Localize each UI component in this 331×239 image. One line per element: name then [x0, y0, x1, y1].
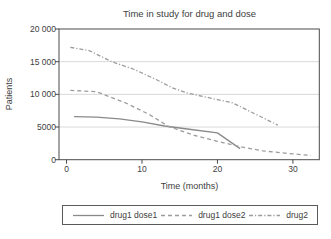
solid-line-sample-icon [72, 211, 105, 220]
legend-entry-drug2: drug2 [248, 210, 308, 220]
series-line-drug2 [70, 47, 277, 125]
legend-entry-drug1-dose1: drug1 dose1 [72, 210, 157, 220]
legend-box: drug1 dose1 drug1 dose2 drug2 [62, 205, 318, 225]
x-tick-label: 30 [278, 164, 308, 174]
dashed-line-sample-icon [160, 211, 193, 220]
x-tick-label: 0 [52, 164, 82, 174]
series-line-drug1-dose1 [74, 117, 240, 149]
legend-label: drug2 [286, 210, 308, 220]
y-tick-label: 10 000 [14, 89, 56, 99]
legend-label: drug1 dose1 [110, 210, 157, 220]
x-tick-label: 10 [127, 164, 157, 174]
y-tick-label: 5000 [14, 122, 56, 132]
series-line-drug1-dose2 [70, 90, 311, 155]
chart-title: Time in study for drug and dose [59, 8, 320, 19]
legend-entry-drug1-dose2: drug1 dose2 [160, 210, 245, 220]
chart-plot-area [0, 0, 331, 239]
x-axis-title: Time (months) [59, 181, 320, 191]
y-tick-label: 15 000 [14, 57, 56, 67]
y-tick-label: 20 000 [14, 24, 56, 34]
x-tick-label: 20 [202, 164, 232, 174]
chart-figure: Time in study for drug and dose Patients… [0, 0, 331, 239]
legend-label: drug1 dose2 [198, 210, 245, 220]
dashdot-line-sample-icon [248, 211, 281, 220]
y-tick-label: 0 [14, 155, 56, 165]
